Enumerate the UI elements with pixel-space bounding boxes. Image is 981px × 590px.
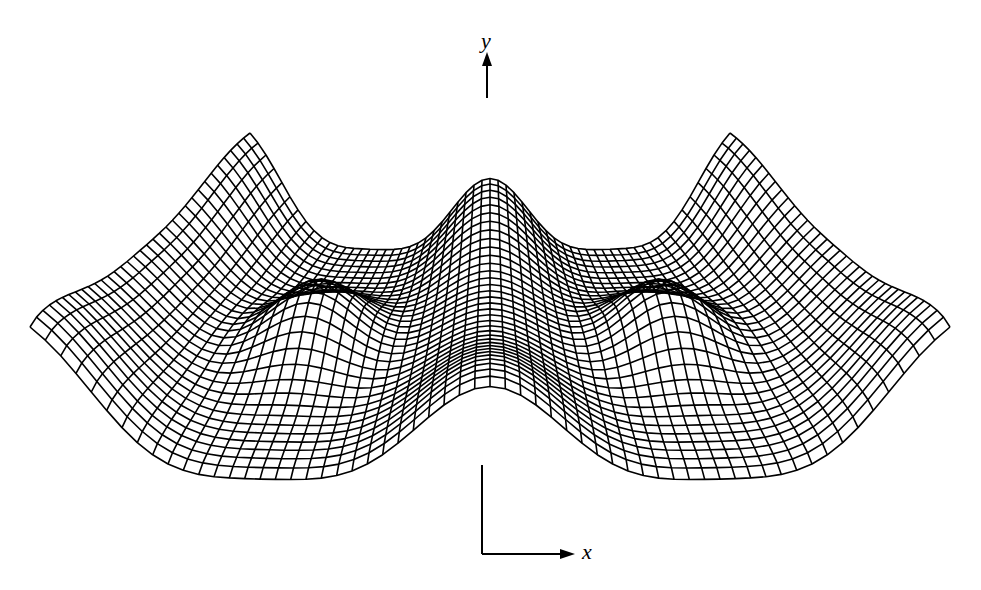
y-axis-label: y: [481, 28, 491, 54]
wireframe-mesh: [30, 133, 950, 480]
mesh-column-line: [674, 221, 843, 442]
mesh-column-line: [383, 231, 434, 455]
mesh-column-line: [475, 180, 482, 389]
wireframe-surface-plot: [0, 0, 981, 590]
mesh-column-line: [498, 180, 505, 389]
mesh-column-line: [730, 133, 950, 327]
mesh-column-line: [546, 231, 597, 455]
x-axis-arrow-icon: [482, 465, 575, 559]
x-axis-label: x: [582, 539, 592, 565]
mesh-column-line: [30, 133, 250, 327]
mesh-column-line: [137, 221, 306, 442]
y-axis-arrow-icon: [482, 52, 492, 98]
